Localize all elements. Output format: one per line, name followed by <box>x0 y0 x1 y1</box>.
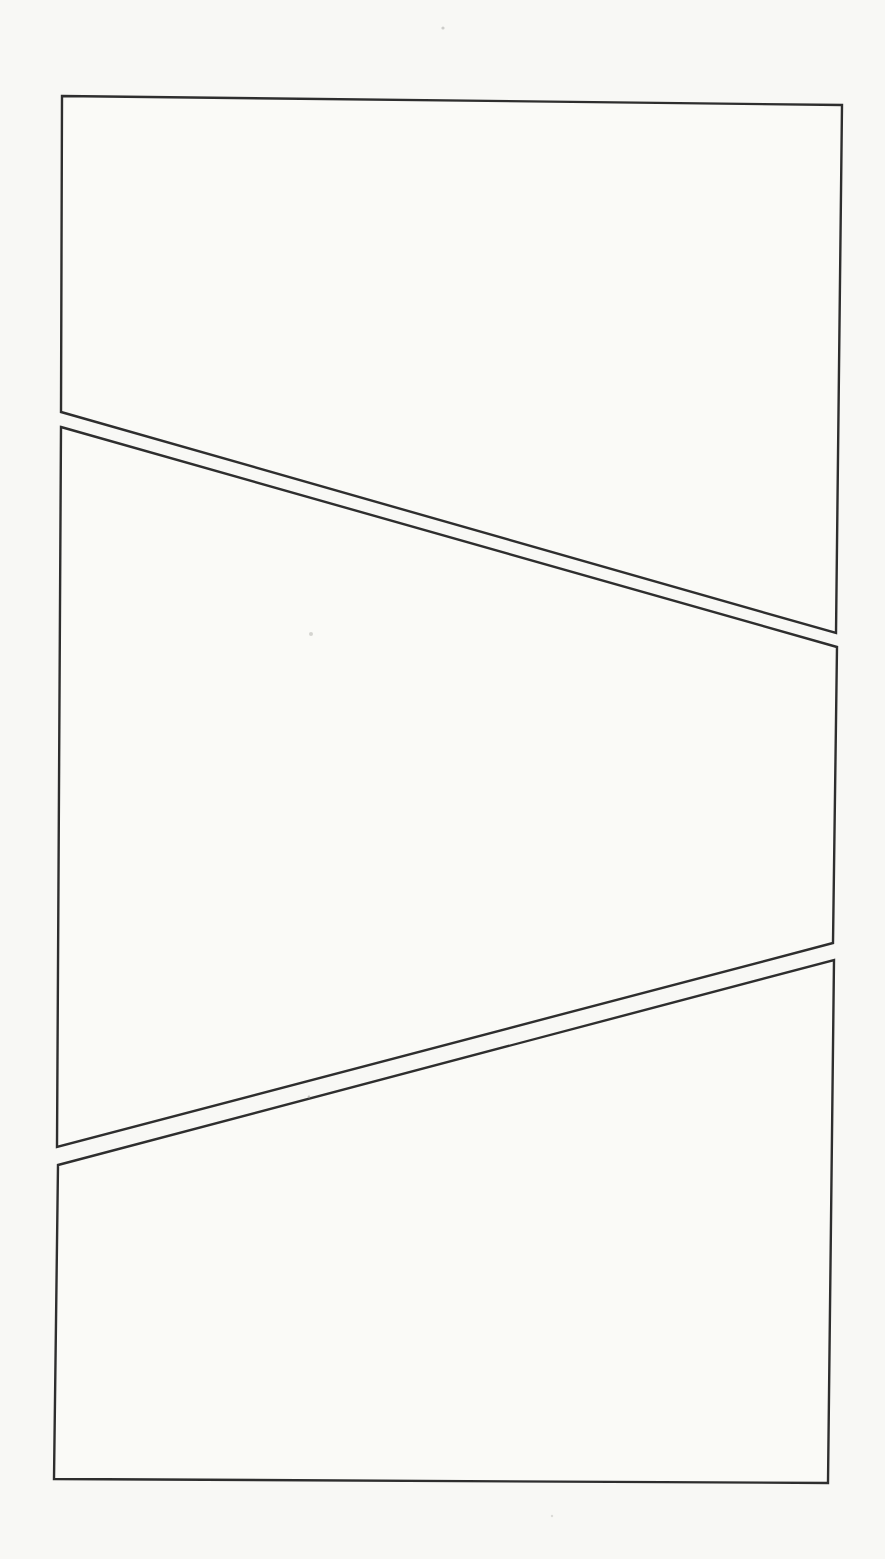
scan-speck <box>551 1515 553 1517</box>
scanned-page <box>0 0 885 1559</box>
scan-speck <box>309 632 313 636</box>
scan-speck <box>441 26 444 29</box>
panels-group <box>54 96 842 1483</box>
scan-speck <box>308 1096 311 1099</box>
comic-panel-drawing <box>0 0 885 1559</box>
